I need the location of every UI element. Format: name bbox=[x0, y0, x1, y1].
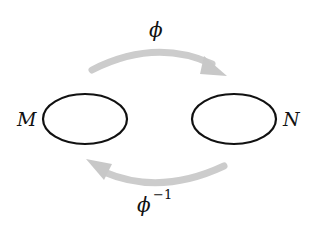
set-n-ellipse bbox=[192, 94, 276, 144]
map-arrow-phi bbox=[92, 52, 227, 76]
set-m-label: M bbox=[16, 108, 37, 130]
map-phi-label: ϕ bbox=[149, 18, 163, 42]
map-phi-inverse-superscript: −1 bbox=[153, 187, 172, 202]
map-phi-inverse-label: ϕ bbox=[137, 193, 151, 217]
set-m-ellipse bbox=[43, 94, 127, 144]
set-n-label: N bbox=[282, 108, 301, 130]
map-arrow-phi-inverse bbox=[86, 159, 224, 183]
arrowhead-icon bbox=[200, 56, 227, 76]
diagram-canvas: M N ϕ ϕ −1 bbox=[0, 0, 312, 232]
